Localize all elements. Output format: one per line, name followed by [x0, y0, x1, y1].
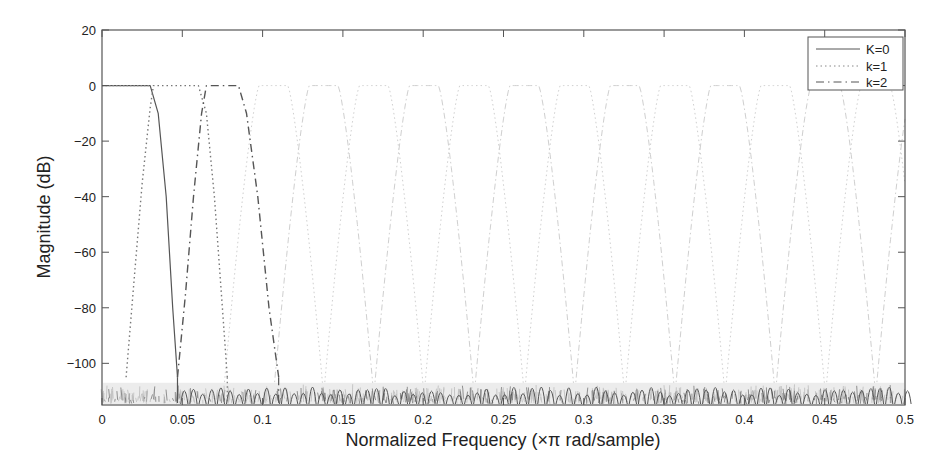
noise-stroke	[643, 397, 644, 401]
noise-stroke	[150, 399, 151, 402]
y-tick-label: −60	[74, 245, 96, 260]
x-tick-label: 0.3	[575, 412, 593, 427]
noise-stroke	[698, 401, 699, 404]
y-tick-label: −20	[74, 134, 96, 149]
y-tick-label: 0	[89, 79, 96, 94]
noise-stroke	[386, 397, 387, 403]
y-tick-label: −40	[74, 190, 96, 205]
stopband-noise	[101, 383, 911, 404]
noise-stroke	[179, 401, 180, 403]
noise-stroke	[244, 391, 245, 399]
noise-stroke	[408, 393, 409, 402]
noise-stroke	[531, 389, 532, 399]
noise-stroke	[189, 389, 190, 400]
noise-stroke	[124, 397, 125, 400]
noise-stroke	[524, 392, 525, 400]
chart: 00.050.10.150.20.250.30.350.40.450.5 200…	[0, 0, 946, 474]
x-axis-label: Normalized Frequency (×π rad/sample)	[345, 430, 660, 450]
x-tick-label: 0.5	[896, 412, 914, 427]
x-tick-label: 0.25	[491, 412, 516, 427]
legend-label-k1: k=1	[866, 59, 887, 74]
x-tick-label: 0.4	[735, 412, 753, 427]
noise-stroke	[867, 393, 868, 400]
y-tick-label: −100	[67, 356, 96, 371]
noise-stroke	[428, 389, 429, 401]
noise-stroke	[568, 399, 569, 402]
legend-label-k0: K=0	[866, 42, 890, 57]
x-tick-label: 0.05	[170, 412, 195, 427]
noise-stroke	[231, 399, 232, 404]
noise-stroke	[133, 400, 134, 403]
x-tick-label: 0.1	[254, 412, 272, 427]
y-axis-label: Magnitude (dB)	[34, 155, 54, 278]
y-tick-label: 20	[82, 23, 96, 38]
noise-stroke	[115, 399, 116, 402]
x-tick-label: 0.15	[330, 412, 355, 427]
y-tick-label: −80	[74, 301, 96, 316]
noise-stroke	[797, 396, 798, 400]
x-tick-label: 0	[98, 412, 105, 427]
x-tick-label: 0.35	[651, 412, 676, 427]
noise-stroke	[554, 387, 555, 399]
legend: K=0 k=1 k=2	[808, 37, 903, 90]
x-tick-label: 0.2	[414, 412, 432, 427]
legend-label-k2: k=2	[866, 75, 887, 90]
x-tick-label: 0.45	[812, 412, 837, 427]
